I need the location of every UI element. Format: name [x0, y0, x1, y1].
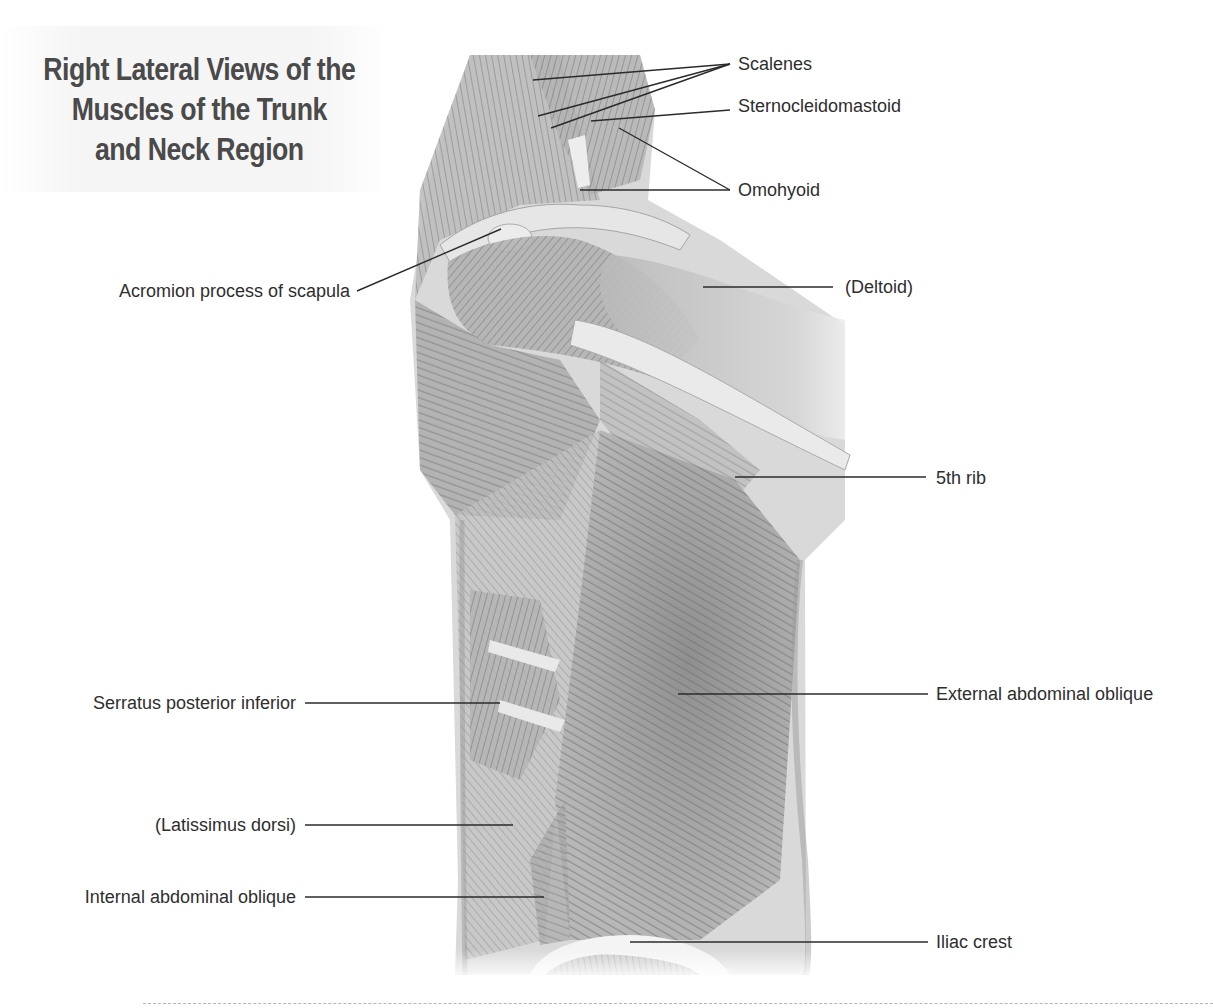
- label-omohyoid: Omohyoid: [738, 179, 820, 201]
- label-sternocleidomastoid: Sternocleidomastoid: [738, 95, 901, 117]
- dashed-page-rule: [143, 1003, 1213, 1004]
- label-latissimus-dorsi: (Latissimus dorsi): [155, 814, 296, 836]
- label-external-abdominal-oblique: External abdominal oblique: [936, 683, 1153, 705]
- label-scalenes: Scalenes: [738, 53, 812, 75]
- label-serratus-posterior-inferior: Serratus posterior inferior: [93, 692, 296, 714]
- label-fifth-rib: 5th rib: [936, 467, 986, 489]
- label-acromion-process: Acromion process of scapula: [119, 280, 350, 302]
- label-deltoid: (Deltoid): [845, 276, 913, 298]
- label-iliac-crest: Iliac crest: [936, 931, 1012, 953]
- label-internal-abdominal-oblique: Internal abdominal oblique: [85, 886, 296, 908]
